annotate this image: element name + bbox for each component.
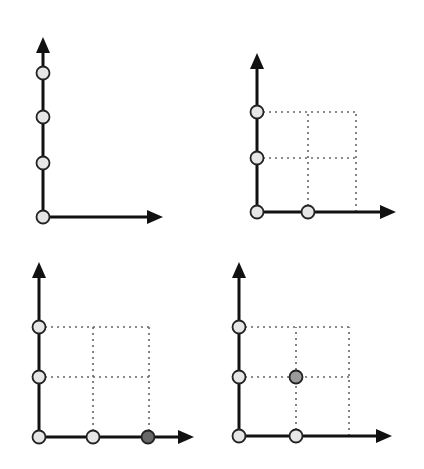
point-empty: [33, 371, 46, 384]
point-empty: [233, 430, 246, 443]
panel-1: [36, 37, 163, 224]
arrow-right-icon: [178, 430, 194, 444]
arrow-right-icon: [376, 429, 392, 443]
point-gray: [290, 371, 303, 384]
arrow-up-icon: [250, 53, 264, 69]
point-empty: [290, 430, 303, 443]
point-empty: [33, 321, 46, 334]
point-empty: [233, 321, 246, 334]
arrow-right-icon: [380, 205, 396, 219]
point-empty: [251, 106, 264, 119]
arrow-right-icon: [147, 210, 163, 224]
point-empty: [251, 152, 264, 165]
point-empty: [251, 206, 264, 219]
arrow-up-icon: [36, 37, 50, 53]
point-empty: [233, 371, 246, 384]
panel-3: [32, 262, 194, 444]
point-dark: [142, 431, 155, 444]
point-empty: [37, 111, 50, 124]
panel-2: [250, 53, 396, 219]
point-empty: [87, 431, 100, 444]
arrow-up-icon: [32, 262, 46, 278]
diagram-canvas: [0, 0, 424, 469]
point-empty: [37, 211, 50, 224]
point-empty: [33, 431, 46, 444]
panel-4: [232, 262, 392, 443]
point-empty: [302, 206, 315, 219]
point-empty: [37, 67, 50, 80]
arrow-up-icon: [232, 262, 246, 278]
point-empty: [37, 157, 50, 170]
